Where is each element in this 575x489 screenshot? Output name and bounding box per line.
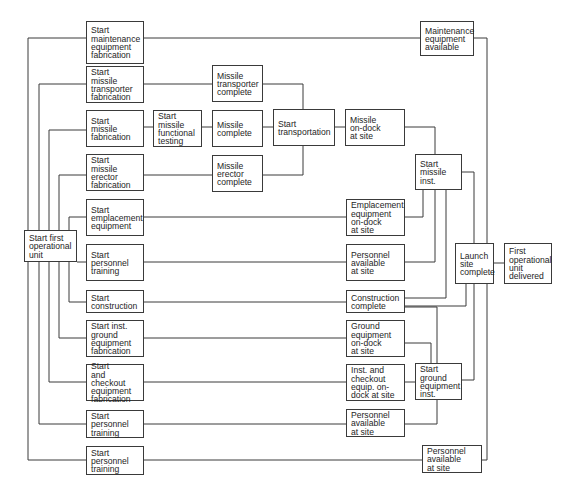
node-label: Start transportation [278, 120, 331, 137]
wire-transporter [39, 84, 86, 230]
network-diagram: Start first operational unit Start maint… [0, 0, 575, 489]
node-first-operational-unit-delivered: First operational unit delivered [504, 243, 552, 284]
node-label: Start and checkout equipment fabrication [91, 362, 140, 403]
node-label: Start construction [91, 294, 140, 311]
node-label: Start personnel training [91, 412, 140, 437]
node-personnel-available-3: Personnel available at site [422, 445, 482, 473]
node-label: Personnel available at site [351, 251, 401, 276]
node-start-erector-fabrication: Start missile erector fabrication [86, 154, 144, 191]
node-start-transportation: Start transportation [273, 109, 335, 146]
node-start-checkout-equipment-fabrication: Start and checkout equipment fabrication [86, 364, 144, 401]
node-label: Launch site complete [460, 252, 490, 277]
node-label: Start first operational unit [29, 234, 73, 259]
node-start-missile-fabrication: Start missile fabrication [86, 110, 144, 147]
node-transporter-complete: Missile transporter complete [212, 65, 263, 102]
node-label: Start personnel training [91, 251, 140, 276]
node-label: Start maintenance equipment fabrication [91, 26, 140, 59]
node-start-ground-equipment-inst: Start ground equipment inst. [415, 363, 462, 400]
node-maintenance-equipment-available: Maintenance equipment available [420, 21, 474, 56]
wire-erector [59, 175, 86, 230]
node-label: First operational unit delivered [509, 247, 548, 280]
node-start-functional-testing: Start missile functional testing [153, 110, 202, 147]
wire-maint [28, 38, 86, 230]
node-launch-site-complete: Launch site complete [455, 243, 494, 284]
node-erector-complete: Missile erector complete [212, 155, 263, 192]
node-label: Start missile erector fabrication [91, 156, 140, 189]
node-checkout-equipment-on-dock: Inst. and checkout equip. on- dock at si… [346, 364, 405, 401]
node-start-personnel-training-2: Start personnel training [86, 410, 144, 438]
wire-missile-fab [49, 130, 86, 230]
node-label: Maintenance equipment available [425, 27, 470, 52]
node-label: Ground equipment on-dock at site [351, 322, 401, 355]
node-missile-complete: Missile complete [212, 110, 263, 147]
node-label: Start emplacement equipment [91, 206, 140, 231]
wire-personnel-3 [28, 262, 86, 460]
node-label: Emplacement equipment on-dock at site [351, 201, 401, 234]
node-label: Start missile inst. [420, 160, 458, 185]
node-start-maintenance-fabrication: Start maintenance equipment fabrication [86, 21, 144, 64]
node-label: Missile transporter complete [217, 72, 259, 97]
node-label: Start missile transporter fabrication [91, 68, 140, 101]
node-label: Missile erector complete [217, 162, 259, 187]
wire-personnel-2 [39, 262, 86, 424]
node-label: Start missile functional testing [158, 112, 198, 145]
wire-emplacement [69, 217, 86, 230]
node-missile-on-dock: Missile on-dock at site [345, 109, 405, 146]
wire-ground-fab [59, 262, 86, 338]
node-start-missile-inst: Start missile inst. [415, 154, 462, 190]
node-label: Construction complete [351, 294, 401, 311]
node-start-construction: Start construction [86, 290, 144, 313]
node-ground-equipment-on-dock: Ground equipment on-dock at site [346, 320, 405, 357]
node-start-transporter-fabrication: Start missile transporter fabrication [86, 66, 144, 103]
node-start-first-operational-unit: Start first operational unit [24, 230, 77, 262]
wire-construction [69, 262, 86, 302]
node-start-ground-equipment-fabrication: Start inst. ground equipment fabrication [86, 320, 144, 357]
node-label: Personnel available at site [427, 447, 478, 472]
node-emplacement-on-dock: Emplacement equipment on-dock at site [346, 199, 405, 236]
node-personnel-available-2: Personnel available at site [346, 409, 405, 437]
node-label: Start inst. ground equipment fabrication [91, 322, 140, 355]
node-start-emplacement-equipment: Start emplacement equipment [86, 199, 144, 236]
node-label: Missile complete [217, 121, 259, 138]
node-label: Start missile fabrication [91, 117, 140, 142]
wire-checkout-fab [49, 262, 86, 382]
node-label: Start personnel training [91, 449, 140, 474]
node-label: Personnel available at site [351, 411, 401, 436]
node-personnel-available-1: Personnel available at site [346, 244, 405, 281]
node-label: Start ground equipment inst. [420, 365, 458, 398]
node-construction-complete: Construction complete [346, 290, 405, 313]
node-start-personnel-training-3: Start personnel training [86, 446, 144, 475]
node-label: Inst. and checkout equip. on- dock at si… [351, 366, 401, 399]
node-label: Missile on-dock at site [350, 116, 401, 141]
node-start-personnel-training-1: Start personnel training [86, 244, 144, 281]
